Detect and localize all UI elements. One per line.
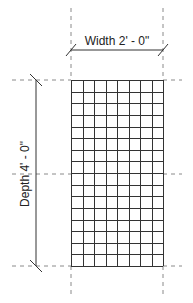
width-label: Width 2' - 0"	[85, 34, 150, 48]
depth-label: Depth 4' - 0"	[18, 141, 32, 207]
grid	[71, 80, 164, 267]
diagram-canvas: Width 2' - 0" Depth 4' - 0"	[0, 0, 193, 303]
